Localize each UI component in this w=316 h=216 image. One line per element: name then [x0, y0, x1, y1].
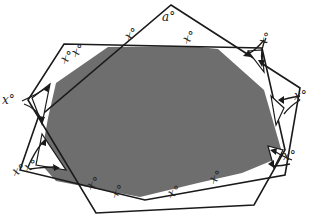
label-top-right: x°	[122, 25, 140, 44]
overlap-region	[40, 46, 283, 197]
label-top-center-right: x°	[180, 28, 198, 47]
label-right-corner: x°	[294, 89, 307, 103]
arrowhead-icon	[38, 116, 45, 124]
label-lower-right-corner: x°	[283, 149, 296, 163]
label-left-upper-corner: x°	[2, 93, 15, 107]
diagram: a° x°x° x° x° x° x° x° x° x° x° x° x° x°…	[0, 0, 316, 216]
label-apex: a°	[162, 10, 175, 24]
geometry-figure: a° x°x° x° x° x° x° x° x° x° x° x° x° x°…	[0, 0, 316, 216]
label-left-lower-corner: x°x°	[10, 157, 39, 179]
